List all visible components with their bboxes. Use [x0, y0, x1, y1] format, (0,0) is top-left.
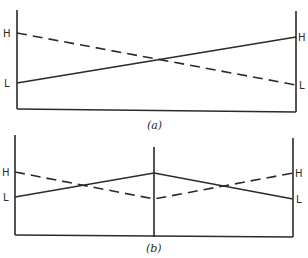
diagram-canvas: H L H L (a) H L H L (b) [0, 0, 308, 258]
panel-a-left-low-label: L [4, 78, 10, 89]
panel-a [17, 10, 296, 112]
panel-b-left-low-label: L [3, 192, 9, 203]
panel-b-left-high-label: H [2, 167, 10, 178]
panel-a-right-high-label: H [298, 32, 306, 43]
panel-b [15, 135, 293, 237]
panel-a-left-high-label: H [3, 28, 11, 39]
panel-a-baseline [17, 109, 296, 112]
panel-b-caption: (b) [146, 242, 162, 255]
panel-b-baseline [15, 235, 293, 237]
panel-a-dashed-line [17, 33, 296, 85]
panel-b-right-low-label: L [296, 194, 302, 205]
panel-a-solid-line [17, 37, 296, 83]
panel-b-right-high-label: H [295, 168, 303, 179]
panel-a-right-low-label: L [299, 80, 305, 91]
panel-a-caption: (a) [147, 119, 162, 132]
